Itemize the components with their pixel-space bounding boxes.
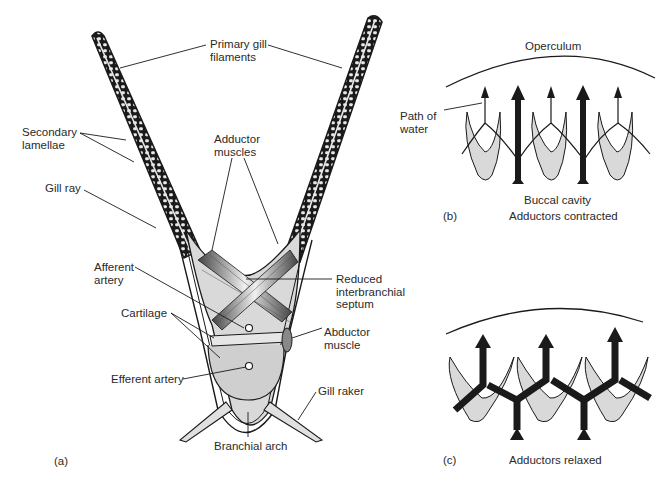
afferent-artery xyxy=(246,325,253,332)
caption-c: (c) xyxy=(443,454,456,466)
label-secondary-lamellae: Secondary lamellae xyxy=(22,126,77,151)
label-path-of-water: Path of water xyxy=(400,110,436,135)
label-buccal-cavity: Buccal cavity xyxy=(524,194,591,207)
label-abductor-muscle: Abductor muscle xyxy=(324,326,370,351)
gill-raker-left xyxy=(180,402,232,442)
label-adductor-muscles: Adductor muscles xyxy=(214,133,260,158)
caption-a: (a) xyxy=(54,455,68,467)
label-operculum: Operculum xyxy=(525,40,581,53)
right-primary-filament xyxy=(284,16,382,262)
filament-pairs-b xyxy=(466,112,633,180)
label-gill-ray: Gill ray xyxy=(45,182,81,195)
panel-b-contracted xyxy=(446,56,655,184)
abductor-muscle xyxy=(282,328,292,352)
label-primary-gill-filaments: Primary gill filaments xyxy=(210,38,267,63)
caption-b: (b) xyxy=(443,210,457,222)
gill-raker-right xyxy=(264,402,322,442)
label-cartilage: Cartilage xyxy=(121,307,167,320)
title-b: Adductors contracted xyxy=(509,210,618,222)
label-branchial-arch: Branchial arch xyxy=(214,440,288,453)
label-gill-raker: Gill raker xyxy=(318,385,364,398)
panel-c-relaxed xyxy=(446,309,650,440)
title-c: Adductors relaxed xyxy=(509,454,602,466)
label-reduced-interbranchial-septum: Reduced interbranchial septum xyxy=(336,273,405,311)
efferent-artery xyxy=(246,363,253,370)
small-arrowheads-b xyxy=(481,86,622,98)
gill-diagram xyxy=(0,0,672,482)
operculum-line xyxy=(446,56,655,87)
left-primary-filament xyxy=(92,32,200,258)
label-afferent-artery: Afferent artery xyxy=(94,261,134,286)
label-efferent-artery: Efferent artery xyxy=(111,373,184,386)
